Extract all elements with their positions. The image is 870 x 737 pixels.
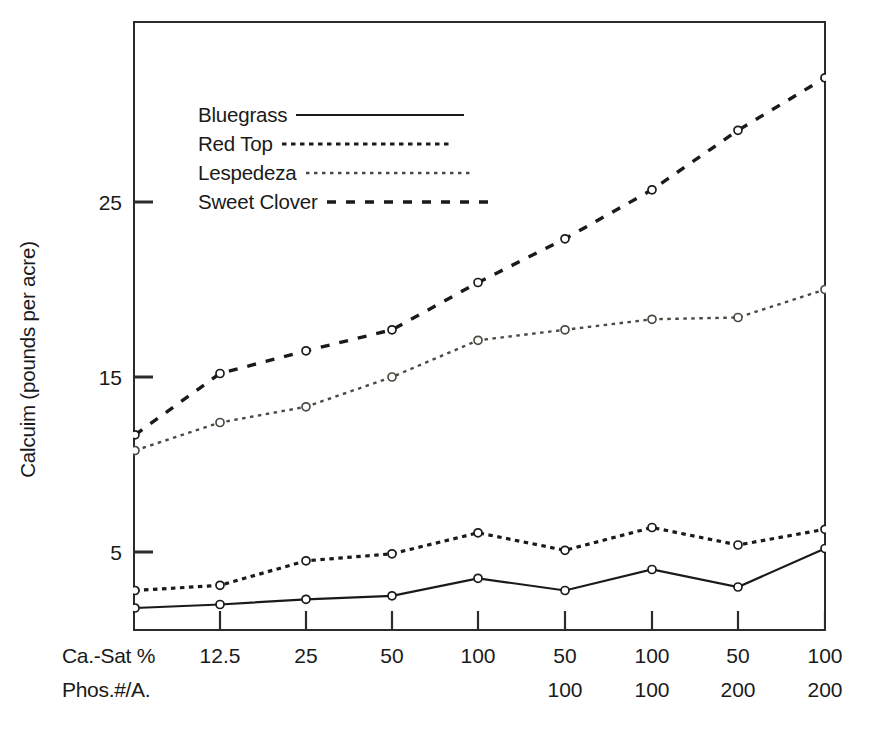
x-axis-tick-label: 200 [720,678,755,702]
data-point-marker [216,601,224,609]
data-point-marker [561,326,569,334]
data-point-marker [561,235,569,243]
data-point-marker [388,326,396,334]
legend-item-sweet-clover[interactable]: Sweet Clover [198,187,538,216]
y-axis-title: Calcuim (pounds per acre) [0,0,56,737]
y-axis-title-text: Calcuim (pounds per acre) [16,241,40,496]
y-axis-tick-labels: 25155 [60,0,122,737]
data-point-marker [734,541,742,549]
data-point-marker [133,587,139,595]
data-point-marker [561,587,569,595]
data-point-marker [474,336,482,344]
data-point-marker [302,403,310,411]
x-axis-tick-label: 50 [380,644,403,668]
data-point-marker [734,126,742,134]
y-axis-tick-label: 5 [110,542,122,563]
data-point-marker [821,545,826,553]
data-point-marker [388,550,396,558]
data-point-marker [388,592,396,600]
x-axis-tick-label: 200 [807,678,842,702]
data-point-marker [302,557,310,565]
data-point-marker [474,574,482,582]
x-axis-tick-label: 50 [726,644,749,668]
data-point-marker [648,524,656,532]
x-axis-tick-label: 100 [634,644,669,668]
x-axis-row-title: Ca.-Sat % [62,644,155,668]
x-axis-tick-label: 100 [807,644,842,668]
legend-item-label: Sweet Clover [198,190,318,214]
x-axis-row-title: Phos.#/A. [62,678,150,702]
legend-item-swatch [306,166,538,180]
legend-item-bluegrass[interactable]: Bluegrass [198,100,538,129]
x-axis-tick-label: 100 [634,678,669,702]
legend-item-red-top[interactable]: Red Top [198,129,538,158]
x-axis-tick-label: 100 [460,644,495,668]
series-line [135,290,825,451]
series-bluegrass [133,545,826,613]
x-axis-tick-label: 12.5 [200,644,241,668]
data-point-marker [734,314,742,322]
legend-item-lespedeza[interactable]: Lespedeza [198,158,538,187]
y-axis-tick-label: 25 [99,192,122,213]
legend-item-label: Red Top [198,132,273,156]
data-point-marker [821,74,826,82]
chart-legend: BluegrassRed TopLespedezaSweet Clover [198,100,538,216]
data-point-marker [734,583,742,591]
data-point-marker [302,347,310,355]
data-point-marker [216,581,224,589]
data-point-marker [388,373,396,381]
x-axis-tick-label: 100 [547,678,582,702]
chart-figure: Calcuim (pounds per acre) 25155 Bluegras… [0,0,870,737]
legend-item-swatch [282,137,538,151]
x-axis-labels: Ca.-Sat %12.525501005010050100Phos.#/A.1… [0,640,870,730]
data-point-marker [474,529,482,537]
x-axis-tick-label: 50 [553,644,576,668]
data-point-marker [216,419,224,427]
legend-item-label: Lespedeza [198,161,297,185]
data-point-marker [561,546,569,554]
data-point-marker [133,447,139,455]
x-axis-tick-label: 25 [294,644,317,668]
data-point-marker [216,370,224,378]
data-point-marker [133,604,139,612]
data-point-marker [648,186,656,194]
data-point-marker [821,286,826,294]
data-point-marker [302,595,310,603]
data-point-marker [648,566,656,574]
legend-item-swatch [296,108,538,122]
y-axis-tick-label: 15 [99,367,122,388]
data-point-marker [648,315,656,323]
data-point-marker [133,431,139,439]
data-point-marker [474,279,482,287]
legend-item-swatch [327,195,538,209]
data-point-marker [821,525,826,533]
legend-item-label: Bluegrass [198,103,287,127]
